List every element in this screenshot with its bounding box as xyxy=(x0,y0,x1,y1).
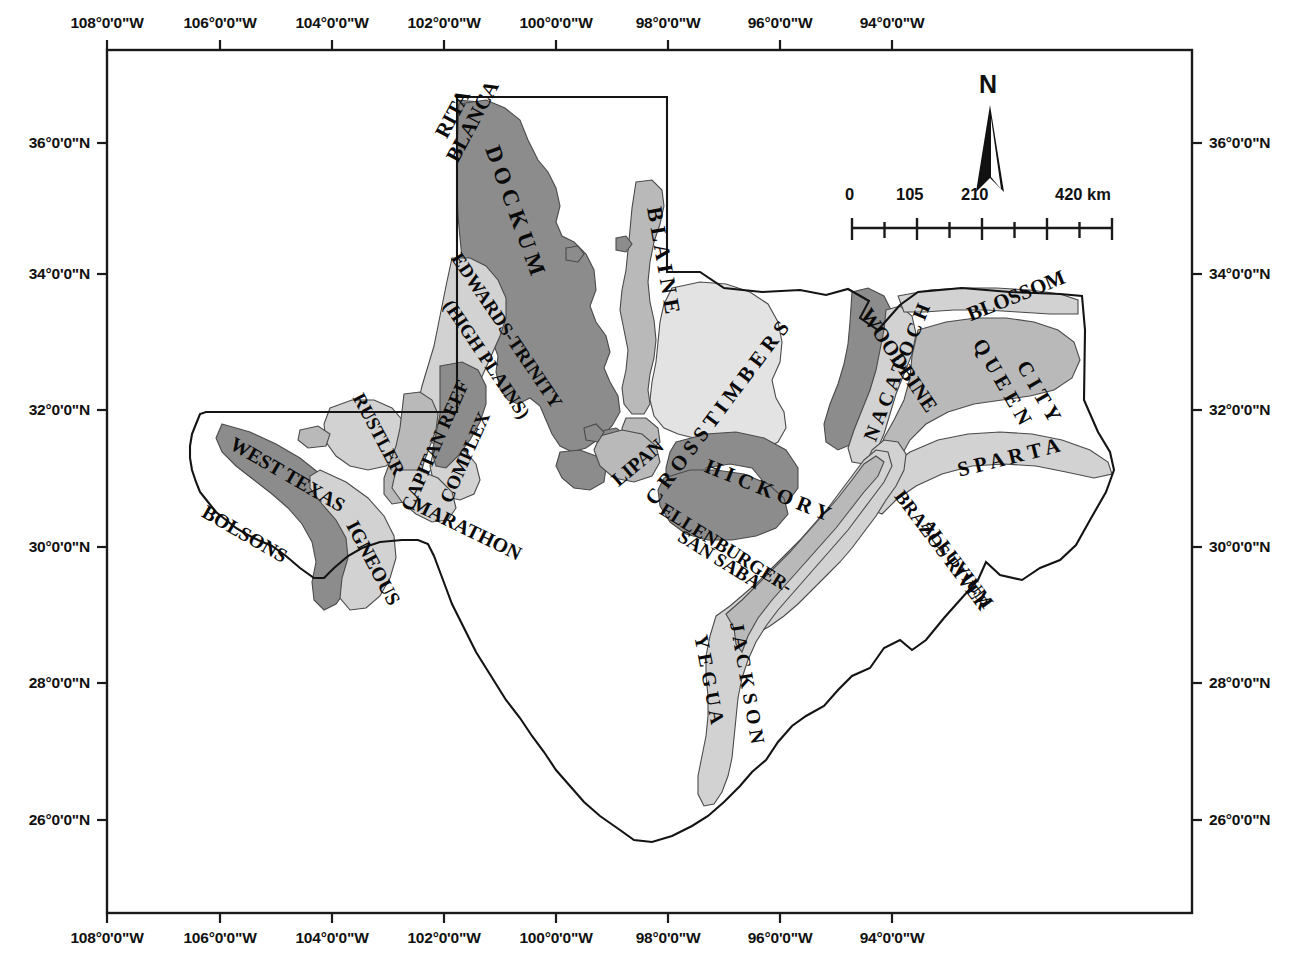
aquifer-label-jackson: J A C K S O N xyxy=(727,620,768,745)
aquifer-label-marathon: MARATHON xyxy=(409,493,525,563)
aquifer-label-west-texas-bolsons: WEST TEXAS xyxy=(227,433,349,515)
aquifer-label-hickory: H I C K O R Y xyxy=(702,456,834,525)
aquifer-label-layer: RITABLANCAD O C K U MEDWARDS-TRINITY(HIG… xyxy=(0,0,1300,972)
aquifer-label-ellenburger: ELLENBURGER- xyxy=(657,499,796,596)
aquifer-label-yegua: Y E G U A xyxy=(691,633,728,726)
map-figure: 108°0'0"W 106°0'0"W 104°0'0"W 102°0'0"W … xyxy=(0,0,1300,972)
aquifer-label-rustler: RUSTLER xyxy=(350,390,409,478)
figure-caption xyxy=(8,953,1288,971)
aquifer-label-blaine: B L A I N E xyxy=(643,205,683,315)
aquifer-label-brazos-alluvium: ALLUVIUM xyxy=(918,516,997,612)
aquifer-label-west-texas-bolsons-2: BOLSONS xyxy=(199,501,291,566)
aquifer-label-dockum: D O C K U M xyxy=(481,143,549,279)
aquifer-label-igneous: IGNEOUS xyxy=(343,517,404,608)
aquifer-label-sparta: S P A R T A xyxy=(955,435,1062,481)
aquifer-label-blossom: BLOSSOM xyxy=(964,267,1068,325)
